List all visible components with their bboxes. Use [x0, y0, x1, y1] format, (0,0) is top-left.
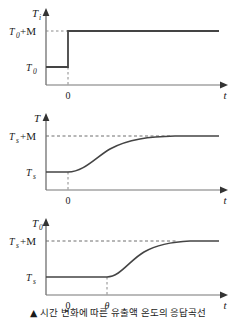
- y-axis-arrow: [43, 8, 50, 16]
- chart-panel-delayed-response: T 0 T s +M T s 0 θ t: [0, 210, 236, 310]
- x-tick-label-zero: 0: [66, 90, 71, 101]
- y-tick-label-lower-subscript: s: [33, 172, 36, 181]
- y-axis-label: T: [32, 7, 39, 19]
- y-tick-label-lower-subscript: s: [33, 277, 36, 286]
- y-tick-label-lower-subscript: 0: [33, 67, 37, 76]
- chart-panel-first-order-response: T T s +M T s 0 t: [0, 105, 236, 210]
- y-tick-label-upper-suffix: +M: [20, 130, 36, 142]
- figure-caption: ▲ 시간 변화에 따른 유출액 온도의 응답곡선: [0, 305, 236, 319]
- y-tick-label-lower-base: T: [26, 62, 33, 73]
- x-axis-label: t: [223, 89, 227, 101]
- y-tick-label-upper-suffix: +M: [20, 235, 36, 247]
- y-tick-label-upper-suffix: +M: [20, 25, 36, 37]
- x-axis-arrow: [220, 82, 228, 89]
- delayed-response-curve: [46, 241, 219, 277]
- first-order-response-curve: [46, 136, 219, 172]
- x-axis-arrow: [220, 292, 228, 299]
- response-curve-figure: T i T 0 +M T 0 0 t T T: [0, 0, 236, 321]
- y-axis-arrow: [43, 113, 50, 121]
- y-axis-arrow: [43, 218, 50, 226]
- delayed-response-plot: T 0 T s +M T s 0 θ t: [0, 210, 236, 310]
- y-tick-label-lower-base: T: [26, 272, 33, 283]
- chart-panel-step-input: T i T 0 +M T 0 0 t: [0, 0, 236, 105]
- x-axis-label: t: [223, 194, 227, 206]
- y-axis-label-subscript: 0: [39, 223, 43, 232]
- y-axis-label: T: [34, 112, 41, 124]
- y-tick-label-upper-base: T: [9, 26, 16, 37]
- y-tick-label-upper-subscript: s: [16, 241, 19, 250]
- first-order-response-plot: T T s +M T s 0 t: [0, 105, 236, 210]
- step-input-plot: T i T 0 +M T 0 0 t: [0, 0, 236, 105]
- y-tick-label-upper-base: T: [9, 131, 16, 142]
- y-tick-label-upper-subscript: s: [16, 136, 19, 145]
- y-tick-label-upper-base: T: [9, 236, 16, 247]
- y-axis-label: T: [32, 217, 39, 229]
- y-tick-label-lower-base: T: [26, 167, 33, 178]
- x-axis-arrow: [220, 187, 228, 194]
- y-axis-label-subscript: i: [39, 13, 41, 22]
- step-response-curve: [46, 31, 219, 67]
- x-tick-label-zero: 0: [66, 195, 71, 206]
